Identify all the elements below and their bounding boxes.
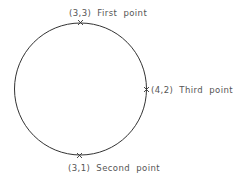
x-mark-icon xyxy=(77,153,82,158)
second-point-marker xyxy=(77,153,82,158)
third-point-label: (4,2) Third point xyxy=(151,85,233,95)
first-point-label: (3,3) First point xyxy=(69,8,147,18)
second-point-label: (3,1) Second point xyxy=(68,163,160,173)
first-point-marker xyxy=(78,20,83,25)
three-point-circle-diagram: (3,3) First point (4,2) Third point (3,1… xyxy=(0,0,242,178)
circle xyxy=(15,23,147,155)
x-mark-icon xyxy=(78,20,83,25)
